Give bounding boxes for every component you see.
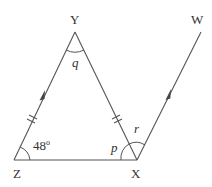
angle-arc-x-interior xyxy=(121,144,129,160)
label-w: W xyxy=(191,12,204,27)
angle-label-q: q xyxy=(72,55,79,70)
equal-ticks-zy xyxy=(27,115,37,123)
geometry-diagram: Y Z X W q 48o p r xyxy=(0,0,212,187)
label-z: Z xyxy=(13,166,21,181)
label-x: X xyxy=(131,166,141,181)
parallel-arrow-zy xyxy=(40,90,46,101)
angle-label-48: 48o xyxy=(33,138,50,153)
angle-label-p: p xyxy=(110,140,118,155)
angle-arc-y xyxy=(66,50,84,52)
angle-arc-x-exterior xyxy=(129,142,145,145)
angle-label-r: r xyxy=(134,121,140,136)
angle-arc-z xyxy=(20,147,30,160)
label-y: Y xyxy=(70,12,80,27)
side-yx xyxy=(75,32,137,160)
parallel-arrow-xw xyxy=(166,89,172,100)
